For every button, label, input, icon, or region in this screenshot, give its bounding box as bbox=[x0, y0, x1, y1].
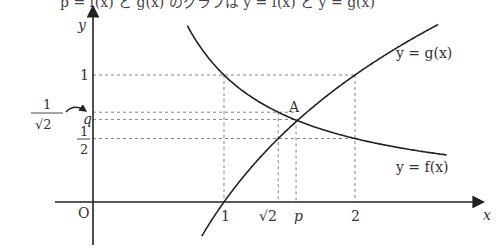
y-tick-half-denominator: 2 bbox=[80, 142, 88, 157]
y-tick-1: 1 bbox=[80, 67, 89, 83]
x-tick-p: p bbox=[294, 208, 303, 224]
intersection-label-A: A bbox=[288, 99, 300, 115]
y-tick-half-numerator: 1 bbox=[80, 124, 88, 139]
x-tick-1: 1 bbox=[221, 208, 230, 224]
inv-sqrt2-denominator: √2 bbox=[35, 117, 52, 132]
inv-sqrt2-numerator: 1 bbox=[43, 97, 51, 112]
x-tick-2: 2 bbox=[351, 208, 360, 224]
y-axis-label: y bbox=[77, 17, 87, 33]
dashed-guide-lines bbox=[93, 75, 355, 202]
x-axis-label: x bbox=[483, 207, 491, 223]
x-tick-sqrt2: √2 bbox=[259, 208, 277, 224]
y-tick-inv-sqrt2: 1 √2 bbox=[31, 97, 86, 132]
origin-label: O bbox=[78, 205, 89, 221]
curve-f-label: y = f(x) bbox=[395, 159, 449, 175]
y-tick-half: 1 2 bbox=[77, 124, 90, 157]
function-graph: y x O 1 √2 p 2 1 q 1 2 1 √2 A y = g(x) y… bbox=[0, 0, 500, 252]
curve-g-label: y = g(x) bbox=[395, 45, 452, 61]
